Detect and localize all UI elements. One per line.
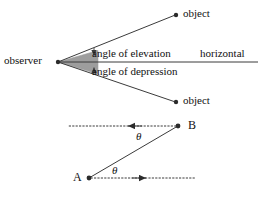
geometry-diagram [0, 0, 263, 197]
upper-object-label: object [183, 8, 210, 19]
point-a-label: A [73, 171, 82, 183]
lower-object-dot [174, 100, 178, 104]
observer-label: observer [4, 55, 42, 66]
theta-at-b-label: θ [136, 131, 141, 142]
observer-point-dot [56, 60, 60, 64]
segment-a-to-b [89, 127, 177, 179]
angle-of-elevation-label: angle of elevation [92, 48, 171, 59]
figure-canvas: observer angle of elevation angle of dep… [0, 0, 263, 197]
theta-at-a-label: θ [112, 165, 117, 176]
point-a-dot [87, 176, 92, 181]
horizontal-label: horizontal [200, 48, 245, 59]
point-b-label: B [188, 119, 196, 131]
lower-object-label: object [183, 95, 210, 106]
angle-of-depression-label: angle of depression [92, 66, 178, 77]
point-b-dot [176, 124, 181, 129]
upper-object-dot [174, 13, 178, 17]
